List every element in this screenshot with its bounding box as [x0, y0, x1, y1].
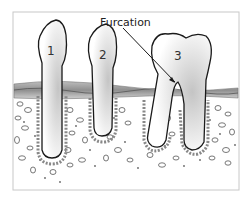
- tooth-3-number: 3: [174, 49, 182, 63]
- tooth-1: 1: [38, 20, 67, 164]
- tooth-2-number: 2: [99, 48, 107, 62]
- furcation-diagram: 1 2 3 Furcation: [0, 0, 252, 204]
- tooth-1-number: 1: [47, 44, 55, 58]
- furcation-label: Furcation: [100, 16, 151, 29]
- diagram-canvas: 1 2 3 Furcation: [0, 0, 252, 204]
